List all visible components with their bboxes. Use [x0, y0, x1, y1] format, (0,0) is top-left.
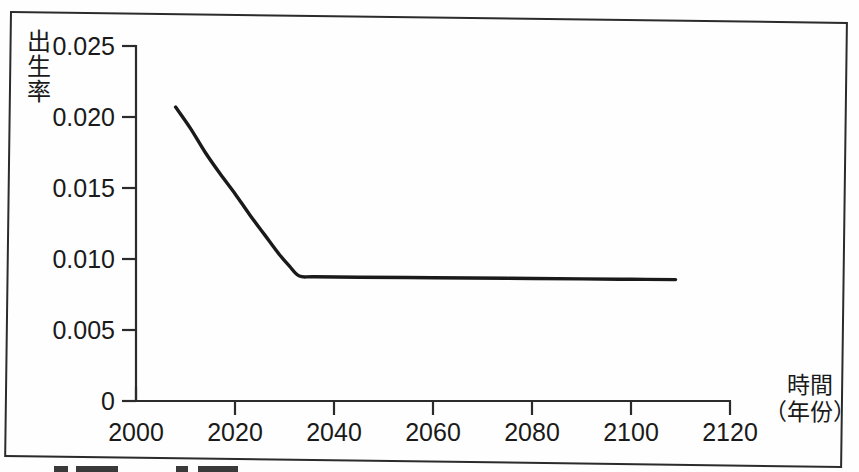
- axis-lines: [136, 45, 731, 401]
- x-tick-label-5: 2100: [603, 418, 659, 446]
- x-tick-label-2: 2040: [306, 418, 362, 446]
- x-axis-title-line-1: 時間: [762, 372, 858, 399]
- x-tick-label-6: 2120: [702, 418, 758, 446]
- bleed-mark-4: [198, 466, 238, 472]
- y-axis-title-char-2: 率: [24, 80, 54, 105]
- birth-rate-curve: [176, 107, 676, 280]
- x-axis-title-line-2: （年份）: [762, 399, 858, 426]
- y-tick-label-1: 0.005: [52, 316, 115, 344]
- page-bottom-bleed: [38, 466, 278, 472]
- x-axis-tick-labels: 2000 2020 2040 2060 2080 2100 2120: [108, 418, 758, 446]
- y-axis-title-char-1: 生: [24, 55, 54, 80]
- y-tick-label-2: 0.010: [52, 245, 115, 273]
- bleed-mark-1: [54, 466, 68, 472]
- x-tick-label-1: 2020: [207, 418, 263, 446]
- y-axis-title-char-0: 出: [24, 30, 54, 55]
- birth-rate-line-chart: 0.025 0.020 0.015 0.010 0.005 0 2000 202…: [0, 0, 859, 472]
- bleed-mark-2: [76, 466, 118, 472]
- x-axis-title: 時間 （年份）: [762, 372, 858, 426]
- plot-area: 0.025 0.020 0.015 0.010 0.005 0 2000 202…: [0, 0, 859, 472]
- y-tick-label-3: 0.015: [52, 174, 115, 202]
- y-axis-ticks: [122, 46, 136, 401]
- y-tick-label-4: 0.020: [52, 103, 115, 131]
- x-tick-label-4: 2080: [504, 418, 560, 446]
- y-tick-label-0: 0: [101, 387, 115, 415]
- x-tick-label-0: 2000: [108, 418, 164, 446]
- chart-page: 0.025 0.020 0.015 0.010 0.005 0 2000 202…: [0, 0, 859, 472]
- x-tick-label-3: 2060: [405, 418, 461, 446]
- bleed-mark-3: [176, 466, 188, 472]
- y-tick-label-5: 0.025: [52, 32, 115, 60]
- y-axis-title: 出 生 率: [24, 30, 54, 106]
- y-axis-tick-labels: 0.025 0.020 0.015 0.010 0.005 0: [52, 32, 115, 415]
